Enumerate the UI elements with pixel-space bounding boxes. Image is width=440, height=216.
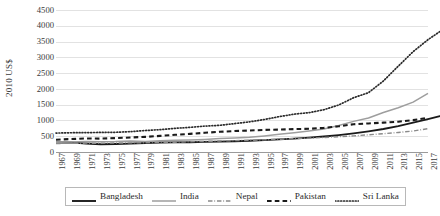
x-tick-label: 1991 <box>238 153 246 170</box>
y-tick-label: 3000 <box>14 53 54 62</box>
x-tick-label: 2017 <box>431 153 439 170</box>
series-line-pakistan <box>56 118 428 140</box>
x-tick-label: 1979 <box>148 153 156 170</box>
chart-legend: BangladeshIndiaNepalPakistanSri Lanka <box>65 187 406 206</box>
x-tick-label: 1967 <box>59 153 67 170</box>
x-tick-label: 1973 <box>104 153 112 170</box>
y-tick-label: 4000 <box>14 21 54 30</box>
y-tick-label: 2500 <box>14 69 54 78</box>
x-axis-tick-labels: 1967196919711973197519771979198119831985… <box>56 153 428 187</box>
legend-label: Bangladesh <box>100 192 143 201</box>
x-tick-label: 2015 <box>416 153 424 170</box>
x-tick-label: 2001 <box>312 153 320 170</box>
y-tick-label: 0 <box>14 148 54 157</box>
series-layer <box>56 10 428 152</box>
legend-item-india[interactable]: India <box>152 192 199 202</box>
x-tick-label: 1989 <box>223 153 231 170</box>
x-tick-label: 2003 <box>327 153 335 170</box>
x-tick-label: 2011 <box>387 153 395 169</box>
x-tick-label: 1981 <box>163 153 171 170</box>
x-tick-label: 1987 <box>208 153 216 170</box>
x-tick-label: 1997 <box>282 153 290 170</box>
x-tick-label: 1977 <box>134 153 142 170</box>
legend-item-bangladesh[interactable]: Bangladesh <box>72 192 143 202</box>
y-tick-label: 3500 <box>14 37 54 46</box>
legend-label: India <box>180 192 199 201</box>
x-tick-label: 1975 <box>119 153 127 170</box>
legend-swatch-icon <box>72 192 96 202</box>
legend-swatch-icon <box>208 192 232 202</box>
legend-label: Nepal <box>236 192 258 201</box>
legend-item-sri-lanka[interactable]: Sri Lanka <box>335 192 399 202</box>
legend-swatch-icon <box>152 192 176 202</box>
plot-area <box>56 10 428 152</box>
x-tick-label: 1983 <box>178 153 186 170</box>
x-tick-label: 1985 <box>193 153 201 170</box>
x-tick-label: 2013 <box>401 153 409 170</box>
y-tick-label: 4500 <box>14 6 54 15</box>
x-tick-label: 1993 <box>253 153 261 170</box>
legend-item-nepal[interactable]: Nepal <box>208 192 258 202</box>
x-tick-label: 2005 <box>342 153 350 170</box>
x-tick-label: 1999 <box>297 153 305 170</box>
series-line-sri-lanka <box>56 30 440 134</box>
y-tick-label: 1000 <box>14 116 54 125</box>
y-tick-label: 500 <box>14 132 54 141</box>
legend-label: Sri Lanka <box>363 192 399 201</box>
y-axis-tick-labels: 050010001500200025003000350040004500 <box>10 0 54 216</box>
legend-swatch-icon <box>267 192 291 202</box>
y-tick-label: 1500 <box>14 100 54 109</box>
legend-item-pakistan[interactable]: Pakistan <box>267 192 326 202</box>
legend-label: Pakistan <box>295 192 326 201</box>
x-tick-label: 2009 <box>372 153 380 170</box>
x-tick-label: 1971 <box>89 153 97 170</box>
x-tick-label: 1969 <box>74 153 82 170</box>
x-tick-label: 2007 <box>357 153 365 170</box>
y-tick-label: 2000 <box>14 85 54 94</box>
legend-swatch-icon <box>335 192 359 202</box>
x-tick-label: 1995 <box>268 153 276 170</box>
